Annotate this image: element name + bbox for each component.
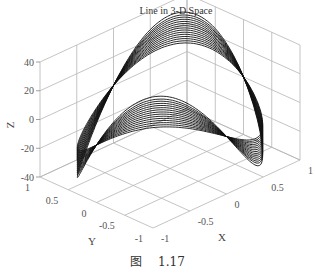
svg-text:0.5: 0.5 <box>271 182 284 193</box>
svg-text:-0.5: -0.5 <box>198 216 214 227</box>
svg-text:1: 1 <box>25 182 30 193</box>
svg-text:-1: -1 <box>161 233 169 244</box>
svg-text:-40: -40 <box>21 172 34 183</box>
svg-text:-20: -20 <box>21 143 34 154</box>
tick-labels: -40-2002040-1-0.500.51-1-0.500.51 <box>21 57 313 245</box>
svg-text:0: 0 <box>82 208 87 219</box>
3d-line-chart: Line in 3-D Space -40-2002040-1-0.500.51… <box>0 0 315 250</box>
caption-label: 图 <box>130 255 142 269</box>
svg-text:0: 0 <box>235 199 240 210</box>
y-axis-label: Y <box>88 235 96 247</box>
svg-text:0: 0 <box>29 114 34 125</box>
z-axis-label: Z <box>4 121 16 128</box>
svg-text:40: 40 <box>24 57 34 68</box>
figure-caption: 图 1.17 <box>0 252 315 269</box>
svg-text:20: 20 <box>24 85 34 96</box>
caption-number: 1.17 <box>158 255 185 269</box>
x-axis-label: X <box>218 231 226 243</box>
data-curves <box>77 12 262 178</box>
svg-text:-0.5: -0.5 <box>99 220 115 231</box>
svg-text:0.5: 0.5 <box>46 195 59 206</box>
svg-text:-1: -1 <box>135 233 143 244</box>
svg-text:1: 1 <box>308 165 313 176</box>
